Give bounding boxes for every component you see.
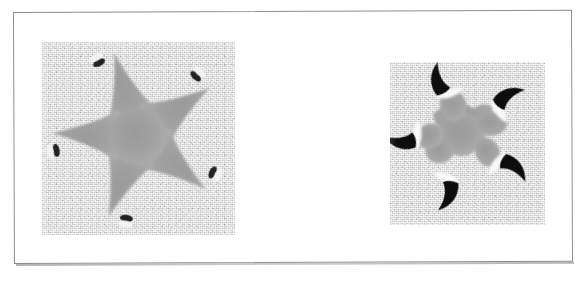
image-panel-original-star[interactable] <box>42 42 235 235</box>
image-panel-segmented-star[interactable] <box>390 62 545 225</box>
segmented-star-graphic <box>390 62 545 225</box>
original-star-graphic <box>42 42 235 235</box>
figure-root <box>0 0 584 282</box>
